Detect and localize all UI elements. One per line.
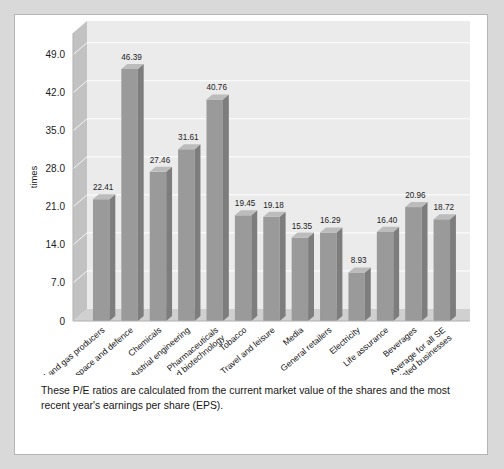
bar-value-label: 15.35 [292,222,313,231]
bar-group [178,144,200,321]
bar-front-face [320,232,336,321]
bar-front-face [178,149,194,321]
bar-value-label: 22.41 [93,183,114,192]
y-axis-tick-label: 42.0 [46,87,66,98]
bar-value-label: 16.40 [377,216,398,225]
x-axis-category-line: General retailers [278,325,333,373]
bar-side-face [280,212,286,321]
bar-chart: 07.014.021.028.035.042.049.0times22.41Oi… [15,15,489,375]
x-axis-category-label: Oil and gas producers [36,325,107,375]
bar-front-face [405,207,421,321]
bar-value-label: 16.29 [320,216,341,225]
y-axis-tick-label: 21.0 [46,201,66,212]
figure-caption: These P/E ratios are calculated from the… [41,383,465,413]
bar-value-label: 20.96 [405,191,426,200]
bar-group [434,214,456,321]
x-axis-category-line: Oil and gas producers [36,325,107,375]
bar-side-face [138,64,144,321]
bar-group [206,94,228,321]
bar-side-face [223,94,229,321]
bar-side-face [393,227,399,321]
y-axis-tick-label: 49.0 [46,49,66,60]
bar-front-face [235,215,251,321]
bar-group [235,210,257,321]
bar-group [292,233,314,321]
bar-front-face [150,172,166,321]
bar-front-face [292,238,308,321]
x-axis-category-label: Media [281,325,306,348]
bar-group [377,227,399,321]
bar-group [405,202,427,321]
bar-value-label: 46.39 [121,53,142,62]
chart-side-wall [73,21,87,321]
x-axis-category-line: Media [281,325,306,348]
x-axis-category-label: General retailers [278,325,333,373]
bar-group [150,167,172,321]
bar-value-label: 31.61 [178,133,199,142]
y-axis-tick-label: 35.0 [46,125,66,136]
bar-value-label: 40.76 [206,83,227,92]
bar-group [263,212,285,321]
chart-canvas: 07.014.021.028.035.042.049.0times22.41Oi… [15,15,489,375]
bar-value-label: 19.18 [263,201,284,210]
figure-card: 07.014.021.028.035.042.049.0times22.41Oi… [14,14,488,455]
bar-value-label: 19.45 [235,199,256,208]
bar-side-face [450,214,456,321]
bar-side-face [422,202,428,321]
bar-front-face [377,232,393,321]
bar-value-label: 18.72 [434,203,455,212]
bar-value-label: 27.46 [150,156,171,165]
bar-side-face [337,227,343,321]
bar-side-face [109,194,115,321]
bar-group [320,227,342,321]
bar-side-face [195,144,201,321]
bar-front-face [206,100,222,321]
bar-group [93,194,115,321]
bar-front-face [348,272,364,321]
bar-front-face [434,219,450,321]
bar-group [121,64,143,321]
y-axis-tick-label: 14.0 [46,239,66,250]
bar-front-face [93,199,109,321]
bar-side-face [251,210,257,321]
bar-value-label: 8.93 [351,256,367,265]
y-axis-tick-label: 7.0 [51,277,65,288]
bar-front-face [121,69,137,321]
y-axis-tick-label: 28.0 [46,163,66,174]
y-axis-tick-label: 0 [59,316,65,327]
bar-side-face [365,267,371,321]
bar-group [348,267,370,321]
bar-front-face [263,217,279,321]
bar-side-face [308,233,314,321]
bar-side-face [166,167,172,321]
y-axis-title: times [28,165,39,188]
